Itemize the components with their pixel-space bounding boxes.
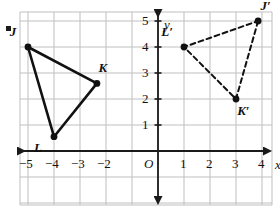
- x-tick-label-1: 1: [180, 157, 187, 170]
- vertex-label-K: K: [99, 61, 108, 74]
- triangle-jkl-prime: [184, 21, 258, 99]
- x-tick-label-3: 3: [232, 157, 239, 170]
- x-tick-label-4: 4: [258, 157, 265, 170]
- y-axis-name: y: [164, 18, 170, 31]
- y-tick-label-2: 2: [142, 92, 149, 105]
- y-tick-label-4: 4: [142, 40, 149, 53]
- x-axis-name: x: [275, 158, 280, 171]
- y-tick-label-1: 1: [142, 118, 149, 131]
- x-tick-label-neg4: −4: [45, 157, 59, 170]
- x-tick-label-neg5: −5: [19, 157, 33, 170]
- vertex-label-K-prime: K′: [237, 104, 249, 117]
- vertex-point: [94, 80, 101, 87]
- triangle-jkl: [28, 47, 97, 137]
- vertex-point: [181, 44, 188, 51]
- vertex-label-J: J: [10, 25, 17, 38]
- vertex-point: [25, 44, 32, 51]
- vertex-point: [51, 133, 58, 140]
- origin-label: O: [144, 157, 153, 170]
- vertex-label-L: L: [34, 141, 42, 154]
- x-tick-label-neg2: −2: [97, 157, 111, 170]
- vertex-label-J-prime: J′: [261, 0, 271, 12]
- y-tick-label-3: 3: [142, 66, 149, 79]
- vertex-point: [233, 96, 240, 103]
- x-tick-label-2: 2: [206, 157, 213, 170]
- vertex-point: [255, 18, 262, 25]
- x-tick-label-neg3: −3: [71, 157, 85, 170]
- y-tick-label-5: 5: [142, 14, 149, 27]
